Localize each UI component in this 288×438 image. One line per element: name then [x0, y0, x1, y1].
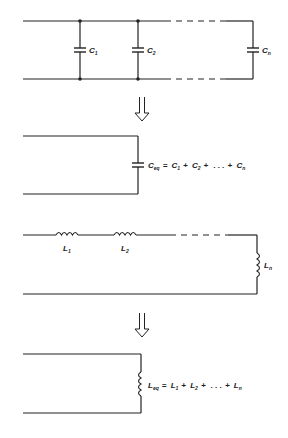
down-arrow-icon [135, 97, 149, 121]
inductor-l2: L2 [114, 233, 136, 255]
svg-text:C1: C1 [89, 46, 98, 56]
down-arrow-icon [135, 313, 149, 337]
svg-text:L1: L1 [63, 244, 71, 254]
junction-dot [78, 77, 82, 81]
capacitor-formula: Ceq= C1+ C2+ . . .+ Cn [148, 161, 245, 171]
parallel-capacitor-circuit: C1 C2 Cn [23, 19, 271, 81]
junction-dot [78, 19, 82, 23]
svg-text:Ln: Ln [264, 261, 272, 271]
inductor-l1: L1 [56, 233, 78, 255]
capacitor-c2: C2 [132, 19, 156, 81]
svg-text:L2: L2 [121, 244, 129, 254]
inductor-formula: Leq= L1+ L2+ . . .+ Ln [148, 381, 242, 391]
svg-text:C2: C2 [147, 46, 156, 56]
equivalent-inductor-circuit: Leq= L1+ L2+ . . .+ Ln [23, 354, 242, 413]
series-inductor-circuit: L1 L2 Ln [23, 233, 272, 295]
capacitor-inductor-equivalence-diagram: C1 C2 Cn Ceq= [0, 0, 288, 438]
capacitor-c1: C1 [74, 19, 98, 81]
junction-dot [136, 19, 140, 23]
svg-text:Cn: Cn [262, 46, 271, 56]
equivalent-capacitor-circuit: Ceq= C1+ C2+ . . .+ Cn [23, 136, 245, 194]
inductor-ln: Ln [257, 253, 272, 277]
capacitor-cn: Cn [247, 21, 271, 79]
junction-dot [136, 77, 140, 81]
